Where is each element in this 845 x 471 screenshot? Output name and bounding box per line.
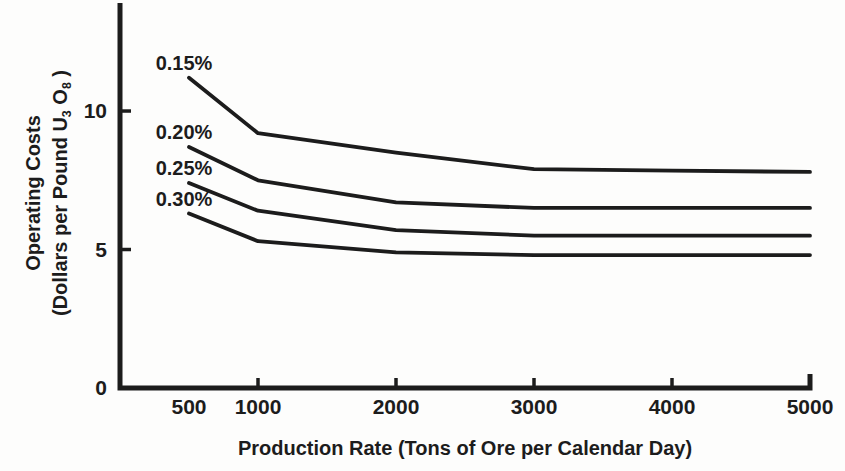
series-label-0.20%: 0.20% [156, 121, 213, 143]
x-tick-label: 3000 [511, 395, 558, 418]
x-tick-label: 4000 [649, 395, 696, 418]
y-axis-title-subscript-8: 8 [60, 82, 74, 89]
series-label-0.25%: 0.25% [156, 157, 213, 179]
y-tick-label: 5 [95, 238, 107, 261]
y-tick-label: 0 [95, 376, 107, 399]
y-axis-title: Operating Costs (Dollars per Pound U3 O8… [20, 18, 74, 368]
y-tick-label: 10 [84, 99, 107, 122]
series-label-0.15%: 0.15% [156, 52, 213, 74]
y-axis-title-subscript-3: 3 [60, 110, 74, 117]
operating-costs-chart-figure: 5001000200030004000500005100.15%0.20%0.2… [0, 0, 845, 471]
series-line-0.20% [189, 147, 810, 208]
y-axis-title-part-pre: (Dollars per Pound U [49, 117, 71, 316]
y-axis-title-line2: (Dollars per Pound U3 O8 ) [47, 18, 74, 368]
y-axis-title-part-mid: O [49, 89, 71, 110]
series-line-0.15% [189, 78, 810, 172]
x-tick-label: 1000 [235, 395, 282, 418]
x-tick-label: 5000 [787, 395, 834, 418]
line-chart-canvas: 5001000200030004000500005100.15%0.20%0.2… [0, 0, 845, 471]
y-axis-title-part-post: ) [49, 70, 71, 82]
y-axis-title-line1: Operating Costs [20, 18, 47, 368]
x-tick-label: 2000 [373, 395, 420, 418]
x-axis-title: Production Rate (Tons of Ore per Calenda… [120, 437, 810, 460]
series-label-0.30%: 0.30% [156, 188, 213, 210]
x-tick-label: 500 [171, 395, 206, 418]
